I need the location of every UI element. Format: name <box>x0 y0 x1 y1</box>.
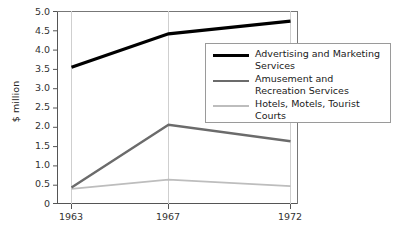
legend-swatch-line-icon <box>213 80 249 82</box>
series-line-hotels-motels-tourist-courts <box>72 180 291 189</box>
line-chart: $ million 5.0 4.5 4.0 3.5 3.0 2.5 2.0 1.… <box>0 0 402 236</box>
legend-item-amusement: Amusement and Recreation Services <box>213 73 387 96</box>
x-tick-label-1963: 1963 <box>46 212 96 222</box>
legend-item-advertising: Advertising and Marketing Services <box>213 48 387 71</box>
legend-label: Hotels, Motels, Tourist Courts <box>255 98 387 121</box>
chart-legend: Advertising and Marketing Services Amuse… <box>205 43 391 123</box>
legend-swatch-line-icon <box>213 105 249 107</box>
series-line-amusement-and-recreation-services <box>72 125 291 188</box>
y-axis-ticks <box>53 12 57 204</box>
x-tick-label-1972: 1972 <box>265 212 315 222</box>
legend-label: Advertising and Marketing Services <box>255 48 387 71</box>
x-axis-ticks <box>72 204 291 209</box>
legend-label: Amusement and Recreation Services <box>255 73 387 96</box>
x-tick-label-1967: 1967 <box>143 212 193 222</box>
legend-swatch-line-icon <box>213 54 249 57</box>
legend-item-hotels: Hotels, Motels, Tourist Courts <box>213 98 387 121</box>
